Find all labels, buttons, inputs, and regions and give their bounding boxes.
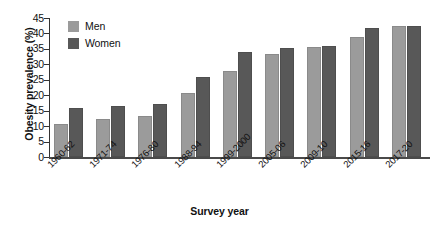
y-tick-label: 30 <box>22 59 44 70</box>
y-tick-mark <box>44 111 49 112</box>
bar-women[interactable] <box>365 28 379 157</box>
obesity-prevalence-bar-chart: Obesity prevalence (%) 05101520253035404… <box>0 0 439 226</box>
bar-group <box>134 18 176 157</box>
y-tick-label: 25 <box>22 74 44 85</box>
legend-swatch-men-icon <box>68 21 79 32</box>
y-tick-label: 40 <box>22 28 44 39</box>
bar-men[interactable] <box>350 37 364 157</box>
bar-men[interactable] <box>392 26 406 157</box>
y-tick-mark <box>44 64 49 65</box>
legend-label-men: Men <box>85 19 105 33</box>
y-tick-label: 45 <box>22 13 44 24</box>
legend-swatch-women-icon <box>68 38 79 49</box>
y-tick-mark <box>44 18 49 19</box>
bar-group <box>388 18 430 157</box>
bar-group <box>346 18 388 157</box>
y-tick-label: 5 <box>22 136 44 147</box>
bar-group <box>177 18 219 157</box>
y-tick-label: 10 <box>22 121 44 132</box>
y-tick-mark <box>44 80 49 81</box>
y-tick-mark <box>44 33 49 34</box>
y-tick-mark <box>44 126 49 127</box>
y-tick-label: 0 <box>22 152 44 163</box>
y-tick-label: 20 <box>22 90 44 101</box>
bar-group <box>303 18 345 157</box>
bar-women[interactable] <box>407 26 421 157</box>
y-tick-mark <box>44 157 49 158</box>
y-axis-tick-labels: 051015202530354045 <box>22 12 44 162</box>
y-tick-mark <box>44 95 49 96</box>
y-tick-mark <box>44 142 49 143</box>
x-axis-title: Survey year <box>0 205 439 217</box>
y-tick-label: 35 <box>22 43 44 54</box>
y-tick-mark <box>44 49 49 50</box>
bar-group <box>261 18 303 157</box>
y-tick-label: 15 <box>22 105 44 116</box>
legend-label-women: Women <box>85 36 121 50</box>
